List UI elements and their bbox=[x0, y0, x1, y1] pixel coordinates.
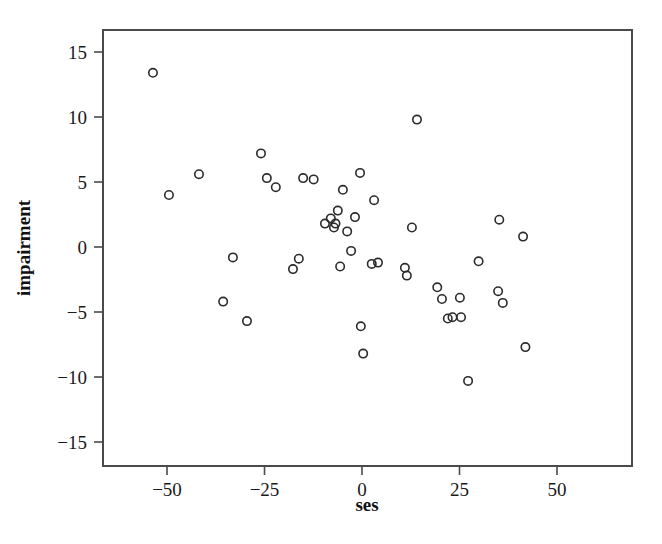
x-tick-label: −25 bbox=[250, 479, 280, 500]
y-tick-label: −10 bbox=[57, 367, 87, 388]
x-axis-title: ses bbox=[355, 494, 378, 515]
y-axis-title: impairment bbox=[13, 199, 34, 296]
y-tick-label: −15 bbox=[57, 432, 87, 453]
x-tick-label: −50 bbox=[152, 479, 182, 500]
y-tick-label: −5 bbox=[67, 302, 87, 323]
x-tick-label: 50 bbox=[548, 479, 567, 500]
x-tick-label: 25 bbox=[450, 479, 469, 500]
y-tick-label: 15 bbox=[68, 42, 87, 63]
y-tick-label: 5 bbox=[78, 172, 88, 193]
y-tick-label: 10 bbox=[68, 107, 87, 128]
y-tick-label: 0 bbox=[78, 237, 88, 258]
figure-background bbox=[0, 0, 662, 544]
scatter-plot-figure: −15−10−5051015 −50−2502550 ses impairmen… bbox=[0, 0, 662, 544]
